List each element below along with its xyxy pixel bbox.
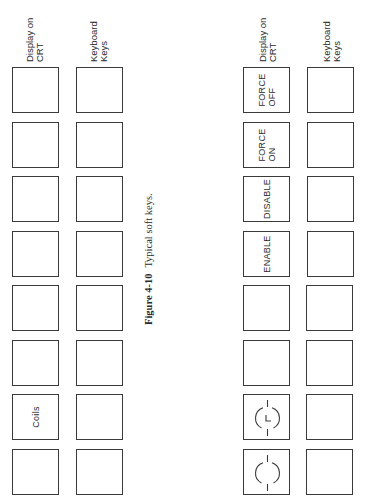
keyboard-key-1[interactable]	[307, 67, 354, 113]
keyboard-key-3[interactable]	[307, 176, 354, 222]
display-on-crt-header: Display on CRT	[258, 2, 278, 62]
keyboard-keys-header: Keyboard Keys	[322, 2, 342, 62]
key-label	[255, 340, 279, 386]
keyboard-key-2[interactable]	[307, 122, 354, 168]
crt-soft-key-5[interactable]	[243, 285, 290, 331]
key-label: ENABLE	[255, 231, 279, 277]
crt-soft-key-disable[interactable]: DISABLE	[243, 176, 290, 222]
crt-soft-key-force-on[interactable]: FORCE ON	[243, 122, 290, 168]
keyboard-key-8[interactable]	[306, 449, 353, 495]
keyboard-key-5[interactable]	[306, 285, 353, 331]
crt-soft-key-force-off[interactable]: FORCE OFF	[243, 67, 290, 113]
key-label	[255, 285, 279, 331]
key-label: DISABLE	[255, 176, 279, 222]
coil-icon	[244, 450, 291, 496]
keyboard-key-7[interactable]	[306, 394, 353, 440]
keyboard-key-4[interactable]	[307, 231, 354, 277]
key-label: FORCE OFF	[255, 67, 279, 113]
crt-soft-key-6[interactable]	[243, 340, 290, 386]
soft-keys-panel-right: Display on CRT Keyboard Keys FORCE OFF F…	[0, 0, 375, 503]
keyboard-key-6[interactable]	[306, 340, 353, 386]
crt-soft-key-latched-coil[interactable]	[243, 394, 290, 440]
key-label: FORCE ON	[255, 122, 279, 168]
crt-soft-key-coil[interactable]	[243, 449, 290, 495]
latched-coil-icon	[244, 395, 291, 441]
crt-soft-key-enable[interactable]: ENABLE	[243, 231, 290, 277]
